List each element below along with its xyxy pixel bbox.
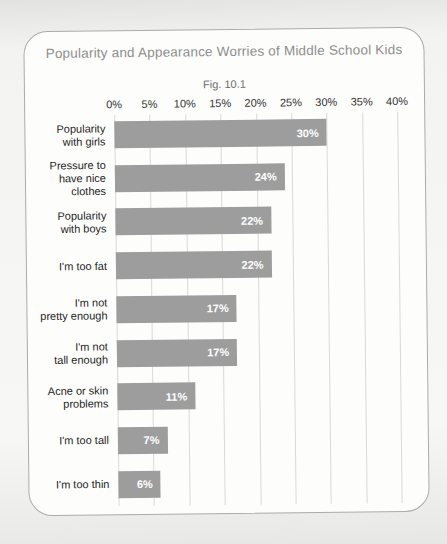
chart-frame: Popularity and Appearance Worries of Mid… (23, 27, 429, 517)
bar: 24% (115, 163, 285, 192)
category-label: I'm too thin (31, 478, 109, 492)
x-axis-tick-label: 25% (271, 96, 311, 108)
bar: 11% (117, 383, 195, 411)
bar-value-label: 7% (143, 434, 159, 446)
bar: 17% (116, 295, 237, 323)
category-label: Acne or skin problems (30, 384, 108, 411)
bar-value-label: 11% (166, 390, 188, 402)
x-axis-tick-label: 30% (306, 96, 346, 108)
category-label: I'm not tall enough (30, 340, 108, 367)
bar-value-label: 6% (137, 478, 153, 490)
bar-value-label: 24% (255, 171, 277, 183)
bar-value-label: 17% (207, 302, 229, 314)
bar: 30% (114, 119, 327, 148)
bar-value-label: 22% (241, 214, 263, 226)
bar: 7% (118, 427, 168, 455)
bar-chart: 0%5%10%15%20%25%30%35%40%Popularity with… (24, 28, 428, 515)
bar-value-label: 22% (241, 258, 263, 270)
x-axis-tick-label: 35% (342, 95, 382, 107)
bar-value-label: 17% (207, 346, 229, 358)
category-label: Popularity with girls (27, 122, 105, 149)
category-label: Popularity with boys (28, 209, 106, 236)
x-axis-tick-label: 40% (377, 95, 417, 107)
gridline (291, 113, 296, 504)
bar: 22% (115, 207, 271, 236)
gridline (362, 112, 367, 503)
category-label: I'm not pretty enough (29, 297, 107, 324)
x-axis-tick-label: 5% (129, 98, 169, 110)
gridline (326, 113, 331, 504)
category-label: Pressure to have nice clothes (28, 159, 106, 199)
x-axis-tick-label: 0% (94, 98, 134, 110)
x-axis-tick-label: 20% (236, 96, 276, 108)
bar: 17% (117, 338, 238, 366)
x-axis-tick-label: 10% (165, 97, 205, 109)
x-axis-tick-label: 15% (200, 97, 240, 109)
bar: 22% (116, 251, 272, 280)
category-label: I'm too fat (29, 259, 107, 273)
bar: 6% (118, 470, 161, 497)
category-label: I'm too tall (31, 434, 109, 448)
gridline (397, 112, 402, 503)
bar-value-label: 30% (297, 126, 319, 138)
